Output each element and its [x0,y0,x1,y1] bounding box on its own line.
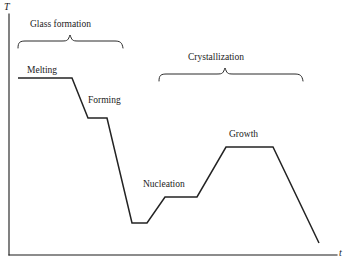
group-label-glass-formation: Glass formation [30,20,91,30]
stage-label-growth: Growth [229,130,258,140]
glass-formation-brace [18,35,123,48]
stage-label-melting: Melting [27,66,57,76]
thermal-profile-curve [18,78,319,243]
group-label-crystallization: Crystallization [188,53,244,63]
x-axis-label: t [339,248,342,258]
crystallization-brace [159,68,303,81]
stage-label-forming: Forming [88,96,121,106]
stage-label-nucleation: Nucleation [143,180,185,190]
y-axis-label: T [4,2,10,12]
thermal-profile-figure: T t Melting Forming Nucleation Growth Gl… [0,0,355,262]
figure-canvas [0,0,355,262]
